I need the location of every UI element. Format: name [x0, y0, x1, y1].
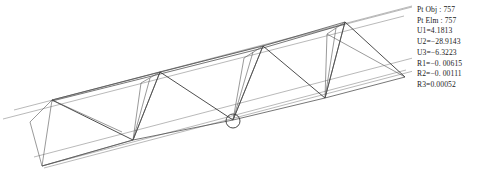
web-stub-1c [52, 100, 122, 132]
result-line-r1: R1=−0. 00615 [417, 59, 480, 70]
far-lower-rail [42, 70, 406, 166]
truss-drawing [0, 0, 412, 173]
result-line-u2: U2=−28.9143 [417, 37, 480, 48]
secondary-web-group [30, 22, 405, 166]
results-readout: Pt Obj : 757 Pt Elm : 757 U1=4.1813 U2=−… [417, 5, 480, 105]
web-stub-2c [133, 78, 150, 140]
result-line-u3: U3=−6.3223 [417, 48, 480, 59]
web-members-group [52, 22, 405, 140]
guide-lines-group [3, 7, 412, 168]
result-line-r3: R3=0.00052 [417, 80, 480, 91]
application-window: Pt Obj : 757 Pt Elm : 757 U1=4.1813 U2=−… [0, 0, 480, 173]
web-stub-1d [42, 140, 133, 166]
model-viewport[interactable] [0, 0, 412, 173]
top-chord [52, 22, 345, 100]
web-stub-1b [30, 122, 42, 166]
mid-guide-line [3, 16, 404, 119]
lower-guide-line [34, 53, 412, 157]
result-line-u1: U1=4.1813 [417, 26, 480, 37]
result-line-pt-obj: Pt Obj : 757 [417, 5, 480, 16]
web-stub-2b [133, 83, 141, 140]
result-line-pt-elm: Pt Elm : 757 [417, 16, 480, 27]
web-vertical-1 [42, 100, 52, 166]
web-zigzag [52, 22, 405, 140]
result-line-r2: R2=−0. 00111 [417, 69, 480, 80]
